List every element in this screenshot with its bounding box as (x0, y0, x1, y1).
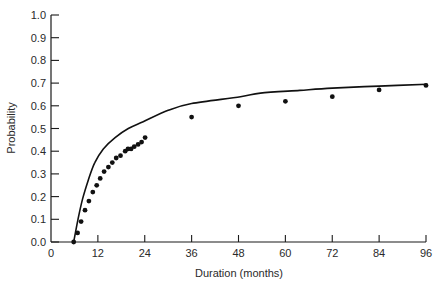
data-point (94, 183, 99, 188)
data-point (118, 153, 123, 158)
data-point (114, 156, 119, 161)
data-point (236, 103, 241, 108)
fitted-curve-line (74, 84, 428, 242)
x-tick-label: 96 (420, 247, 432, 259)
data-point (71, 240, 76, 245)
y-tick-label: 0.5 (31, 123, 46, 135)
y-tick-label: 1.0 (31, 9, 46, 21)
x-tick-label: 48 (232, 247, 244, 259)
data-point (424, 83, 429, 88)
y-tick-label: 0.3 (31, 168, 46, 180)
observed-points (71, 83, 428, 244)
data-point (87, 199, 92, 204)
data-point (98, 176, 103, 181)
y-axis: 0.00.10.20.30.40.50.60.70.80.91.0 (31, 9, 59, 248)
x-tick-label: 84 (373, 247, 385, 259)
data-point (330, 94, 335, 99)
y-tick-label: 0.4 (31, 145, 46, 157)
data-point (110, 160, 115, 165)
y-tick-label: 0.0 (31, 236, 46, 248)
y-tick-label: 0.1 (31, 213, 46, 225)
x-tick-label: 12 (92, 247, 104, 259)
y-tick-label: 0.6 (31, 100, 46, 112)
probability-duration-chart: 0.00.10.20.30.40.50.60.70.80.91.0 012243… (0, 0, 437, 287)
data-point (75, 231, 80, 236)
y-axis-title: Probability (5, 102, 17, 154)
y-tick-label: 0.8 (31, 54, 46, 66)
x-axis-title: Duration (months) (195, 267, 283, 279)
x-tick-label: 24 (139, 247, 151, 259)
x-tick-label: 72 (326, 247, 338, 259)
data-point (79, 219, 84, 224)
x-tick-label: 0 (48, 247, 54, 259)
data-point (102, 169, 107, 174)
data-point (143, 135, 148, 140)
data-point (139, 140, 144, 145)
x-tick-label: 36 (186, 247, 198, 259)
x-axis: 01224364860728496 (48, 235, 432, 259)
data-point (283, 99, 288, 104)
y-tick-label: 0.7 (31, 77, 46, 89)
y-tick-label: 0.9 (31, 32, 46, 44)
data-point (106, 165, 111, 170)
y-tick-label: 0.2 (31, 191, 46, 203)
data-point (83, 208, 88, 213)
data-point (90, 190, 95, 195)
data-point (377, 88, 382, 93)
data-point (189, 115, 194, 120)
x-tick-label: 60 (279, 247, 291, 259)
